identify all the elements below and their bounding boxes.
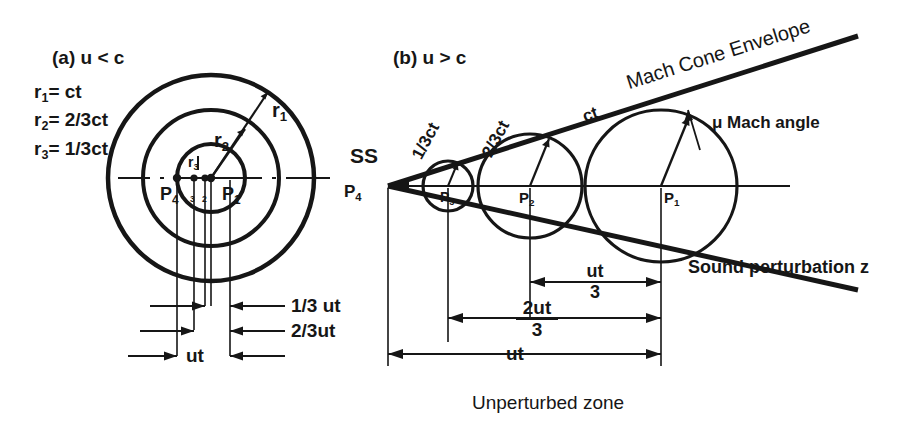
point-label-b-p2-index: 2 — [529, 197, 535, 208]
radius-arrow-b-r1 — [661, 117, 689, 186]
point-label-b-p1: P1 — [664, 190, 680, 208]
sound-perturbation-label: Sound perturbation z — [688, 258, 869, 276]
panel-b-graphics — [388, 36, 858, 366]
legend-r2-value: = 2/3ct — [48, 109, 108, 130]
dimension-label-a-third-ut: 1/3 ut — [291, 296, 341, 315]
panel-a-legend-r2: r2= 2/3ct — [34, 110, 108, 133]
panel-a-legend-r1: r1= ct — [34, 82, 82, 105]
point-label-b-p2: P2 — [519, 190, 535, 208]
dimension-label-b-ut: ut — [506, 344, 524, 363]
point-label-a-p4: P4 — [160, 185, 179, 207]
dimension-arrow-b-ut-right — [646, 349, 661, 359]
point-label-b-p3-index: 3 — [449, 197, 454, 207]
point-label-b-p4: P4 — [344, 183, 362, 203]
radius-label-r2: r2 — [214, 130, 229, 153]
radius-label-r3: r3 — [188, 155, 199, 172]
radius-label-r1: r1 — [272, 100, 287, 123]
point-label-a-p1-symbol: P — [222, 184, 234, 204]
mach-cone-figure: (a) u < c r1= ct r2= 2/3ct r3= 1/3ct r1 … — [0, 0, 905, 444]
dimension-b-twothird-numerator: 2ut — [516, 298, 558, 317]
legend-r1-value: = ct — [48, 81, 81, 102]
dimension-arrow-ut-left — [164, 352, 177, 361]
radius-label-r3-index: 3 — [193, 162, 198, 172]
point-label-b-p1-symbol: P — [664, 189, 674, 206]
point-label-b-p2-symbol: P — [519, 189, 529, 206]
legend-r3-value: = 1/3ct — [48, 138, 108, 159]
dimension-arrow-twothird-ut-left — [181, 327, 194, 336]
point-label-a-p2: 2 — [202, 188, 207, 203]
dimension-arrow-twothird-ut-right — [230, 327, 243, 336]
dimension-b-third-denominator: 3 — [578, 281, 612, 301]
radius-label-r1-index: 1 — [280, 109, 287, 124]
point-label-a-p3: 3 — [190, 188, 195, 203]
radius-label-r2-symbol: r — [214, 129, 222, 151]
point-label-b-p3: P3 — [440, 190, 454, 207]
point-label-b-p4-index: 4 — [355, 191, 361, 203]
point-label-a-p4-symbol: P — [160, 184, 172, 204]
point-label-a-p1: P1 — [222, 185, 241, 207]
mach-angle-label: μ Mach angle — [712, 114, 820, 131]
dimension-arrow-third-ut-left — [192, 302, 205, 311]
point-label-b-p1-index: 1 — [674, 197, 680, 208]
unperturbed-zone-label: Unperturbed zone — [472, 393, 624, 412]
point-label-a-p1-index: 1 — [234, 193, 241, 207]
radius-label-r2-index: 2 — [222, 139, 229, 154]
panel-a-title: (a) u < c — [52, 48, 124, 67]
point-label-b-p4-symbol: P — [344, 182, 355, 201]
dimension-arrow-ut-right — [230, 352, 243, 361]
point-label-b-p3-symbol: P — [440, 189, 449, 205]
panel-a-legend-r3: r3= 1/3ct — [34, 139, 108, 162]
dimension-b-third-numerator: ut — [578, 262, 612, 280]
radius-arrow-r1-head — [261, 92, 268, 100]
dimension-arrow-b-twothird-right — [646, 313, 661, 323]
radius-arrow-b-r2-head — [542, 139, 550, 148]
point-label-a-p4-index: 4 — [172, 193, 179, 207]
dimension-arrow-b-twothird-left — [448, 313, 463, 323]
dimension-label-a-ut: ut — [186, 346, 204, 365]
source-label-ss: SS — [350, 145, 378, 166]
radius-label-r1-symbol: r — [272, 99, 280, 121]
dimension-arrow-third-ut-right — [230, 302, 243, 311]
panel-b-title: (b) u > c — [393, 48, 466, 67]
dimension-b-twothird-denominator: 3 — [516, 318, 558, 339]
point-label-a-p2-index: 2 — [202, 194, 207, 204]
dimension-label-a-twothird-ut: 2/3ut — [291, 321, 335, 340]
dimension-label-b-twothird-ut: 2ut 3 — [516, 298, 558, 340]
panel-a-graphics — [108, 75, 330, 361]
dimension-arrow-b-third-right — [646, 277, 661, 287]
dimension-arrow-b-third-left — [530, 277, 545, 287]
point-label-a-p3-index: 3 — [190, 194, 195, 204]
dimension-arrow-b-ut-left — [388, 349, 403, 359]
dimension-label-b-third-ut: ut 3 — [578, 262, 612, 302]
